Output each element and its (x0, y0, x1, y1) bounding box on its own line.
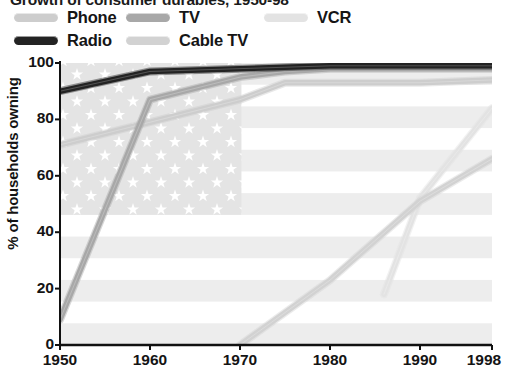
chart-screenshot: Growth of consumer durables, 1950-98 Pho… (0, 0, 500, 385)
plot-area: % of households owning 100 80 60 40 20 0… (0, 0, 500, 385)
chart-canvas (0, 0, 500, 385)
